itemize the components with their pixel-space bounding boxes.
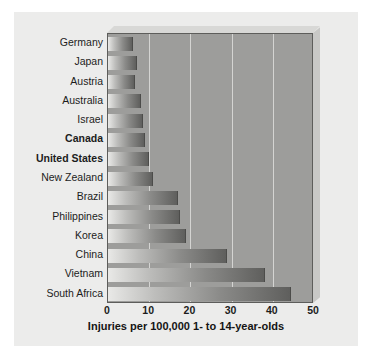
bar-japan <box>108 56 137 70</box>
y-label-korea: Korea <box>20 226 103 245</box>
y-label-germany: Germany <box>20 33 103 52</box>
bar-israel <box>108 114 143 128</box>
bar-row <box>108 227 313 246</box>
bar-series <box>108 34 313 303</box>
bar-south-africa <box>108 287 291 301</box>
bar-canada <box>108 133 145 147</box>
bar-australia <box>108 94 141 108</box>
y-label-philippines: Philippines <box>20 207 103 226</box>
bar-row <box>108 111 313 130</box>
y-label-united-states: United States <box>20 149 103 168</box>
y-label-canada: Canada <box>20 129 103 148</box>
y-label-israel: Israel <box>20 110 103 129</box>
plot-3d-top-bevel <box>107 26 320 33</box>
bar-brazil <box>108 191 178 205</box>
bar-row <box>108 34 313 53</box>
bar-germany <box>108 37 133 51</box>
bar-row <box>108 265 313 284</box>
y-label-austria: Austria <box>20 72 103 91</box>
bar-china <box>108 249 227 263</box>
bar-austria <box>108 75 135 89</box>
x-axis-title: Injuries per 100,000 1- to 14-year-olds <box>14 320 358 332</box>
bar-vietnam <box>108 268 265 282</box>
bar-row <box>108 130 313 149</box>
bar-row <box>108 208 313 227</box>
bar-philippines <box>108 210 180 224</box>
x-axis-tick-labels: 01020304050 <box>107 304 313 318</box>
y-label-brazil: Brazil <box>20 187 103 206</box>
y-label-china: China <box>20 245 103 264</box>
y-label-australia: Australia <box>20 91 103 110</box>
plot-3d-right-bevel <box>313 27 320 303</box>
y-label-south-africa: South Africa <box>20 284 103 303</box>
y-label-vietnam: Vietnam <box>20 264 103 283</box>
bar-united-states <box>108 152 149 166</box>
x-tick-50: 50 <box>307 304 319 316</box>
bar-korea <box>108 229 186 243</box>
bar-row <box>108 150 313 169</box>
x-tick-30: 30 <box>225 304 237 316</box>
bar-row <box>108 285 313 303</box>
bar-row <box>108 53 313 72</box>
plot-area-wrapper <box>107 33 313 303</box>
y-label-japan: Japan <box>20 52 103 71</box>
bar-row <box>108 92 313 111</box>
bar-row <box>108 73 313 92</box>
bar-new-zealand <box>108 172 153 186</box>
chart-figure: GermanyJapanAustriaAustraliaIsraelCanada… <box>0 0 372 358</box>
plot-area <box>107 33 313 303</box>
y-axis-category-labels: GermanyJapanAustriaAustraliaIsraelCanada… <box>20 33 103 303</box>
bar-row <box>108 246 313 265</box>
x-tick-10: 10 <box>142 304 154 316</box>
x-tick-0: 0 <box>104 304 110 316</box>
y-label-new-zealand: New Zealand <box>20 168 103 187</box>
bar-row <box>108 169 313 188</box>
x-tick-20: 20 <box>184 304 196 316</box>
x-tick-40: 40 <box>266 304 278 316</box>
bar-row <box>108 188 313 207</box>
